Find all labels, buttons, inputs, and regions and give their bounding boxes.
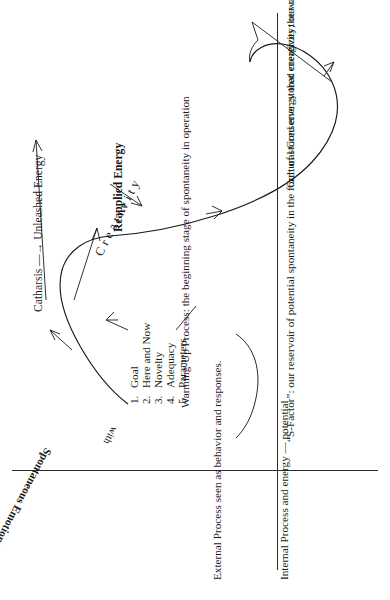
label-catharsis: Catharsis —→ Unleashed Energy xyxy=(32,155,45,312)
note-internal-process: Internal Process and energy — potential xyxy=(277,400,292,580)
criteria-number: 3. xyxy=(152,388,164,404)
spontaneous-arrow-shaft xyxy=(50,330,72,350)
note-warming-up-process: Warming-Up Process: the beginning stage … xyxy=(178,96,193,408)
note-line: External Process xyxy=(211,505,223,580)
criteria-label: Novelty xyxy=(152,352,164,388)
criteria-number: 2. xyxy=(140,388,152,404)
note-line: the warming-up process xyxy=(284,0,296,27)
criteria-item: 1.Goal xyxy=(128,323,140,404)
note-s-factor: “S-Factor”: our reservoir of potential s… xyxy=(283,0,298,442)
criteria-label: Adequacy xyxy=(164,343,176,388)
note-line: energy that energizes xyxy=(284,30,296,125)
note-line: the beginning stage xyxy=(179,219,191,306)
criteria-number: 4. xyxy=(164,388,176,404)
warmup-brace xyxy=(236,334,258,438)
curve-arrow-midright xyxy=(206,206,222,219)
criteria-item: 3.Novelty xyxy=(152,323,164,404)
diagram-strokes xyxy=(0,0,390,600)
diagram-canvas: Catharsis —→ Unleashed Energy Reapplied … xyxy=(0,0,390,600)
criteria-label: Here and Now xyxy=(140,323,152,388)
reapplied-arrow-shaft xyxy=(74,228,97,300)
note-line: and responses. xyxy=(211,360,223,425)
curve-arrow-conserve xyxy=(324,62,334,76)
criteria-item: 2.Here and Now xyxy=(140,323,152,404)
note-line: of spontaneity in operation xyxy=(179,96,191,216)
note-line: potential xyxy=(278,400,290,439)
note-line: seen as behavior xyxy=(211,428,223,502)
note-line: Warming-Up Process: xyxy=(179,309,191,408)
curve-arrow-return xyxy=(106,312,128,330)
criteria-number: 1. xyxy=(128,388,140,404)
note-line: and energy — xyxy=(278,442,290,505)
criteria-label: Goal xyxy=(128,366,140,388)
catharsis-arrow-head xyxy=(33,140,42,152)
note-external-process: External Process seen as behavior and re… xyxy=(210,360,225,580)
curve-upper-tail xyxy=(249,22,258,62)
criteria-item: 4.Adequacy xyxy=(164,323,176,404)
note-line: of potential spontaneity xyxy=(284,222,296,328)
note-line: in the form of stored xyxy=(284,127,296,219)
note-line: Internal Process xyxy=(278,508,290,580)
